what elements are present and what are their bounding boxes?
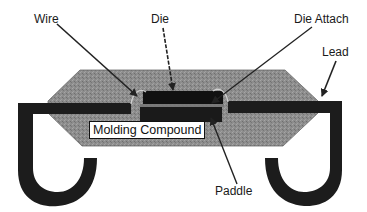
molding-compound-label: Molding Compound xyxy=(89,121,205,139)
die-label: Die xyxy=(151,13,169,25)
package-cross-section-diagram xyxy=(0,0,367,212)
paddle xyxy=(140,107,222,122)
wire-label: Wire xyxy=(34,13,59,25)
lead-pointer-line xyxy=(322,61,336,96)
die xyxy=(143,91,223,104)
lead-label: Lead xyxy=(322,46,349,58)
paddle-label: Paddle xyxy=(215,185,252,197)
die-attach-label: Die Attach xyxy=(294,13,349,25)
die-attach-layer xyxy=(140,104,224,107)
